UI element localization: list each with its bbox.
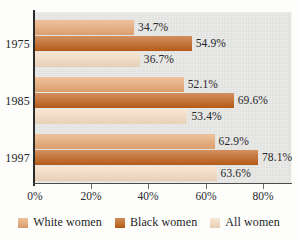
bar-value-label-1997-white-women: 62.9% xyxy=(219,134,249,149)
bar-fill xyxy=(35,150,258,165)
bar-fill xyxy=(35,77,184,92)
x-tick-label-60: 60% xyxy=(195,190,216,202)
legend-swatch-icon-white-women xyxy=(18,218,28,228)
bar-value-label-1997-all-women: 63.6% xyxy=(221,166,251,181)
bar-1985-black-women xyxy=(35,93,234,108)
bar-1975-all-women xyxy=(35,52,140,67)
bar-value-label-1997-black-women: 78.1% xyxy=(262,150,292,165)
bar-1985-all-women xyxy=(35,109,187,124)
legend-label-black-women: Black women xyxy=(130,215,197,230)
bar-value-label-1975-all-women: 36.7% xyxy=(144,52,174,67)
bar-1975-black-women xyxy=(35,36,192,51)
bar-fill xyxy=(35,134,215,149)
bar-value-label-1985-all-women: 53.4% xyxy=(191,109,221,124)
x-axis-line xyxy=(33,183,292,184)
legend-label-all-women: All women xyxy=(225,215,280,230)
bar-fill xyxy=(35,20,134,35)
bar-1975-white-women xyxy=(35,20,134,35)
bar-value-label-1975-black-women: 54.9% xyxy=(196,36,226,51)
legend-item-black-women: Black women xyxy=(115,215,197,230)
x-axis-tick-20 xyxy=(91,184,92,189)
bar-1997-all-women xyxy=(35,166,217,181)
category-label-1975: 1975 xyxy=(0,37,30,52)
x-tick-label-80: 80% xyxy=(252,190,273,202)
bar-fill xyxy=(35,36,192,51)
bar-fill xyxy=(35,109,187,124)
category-label-1997: 1997 xyxy=(0,151,30,166)
bar-1997-black-women xyxy=(35,150,258,165)
bar-value-label-1975-white-women: 34.7% xyxy=(138,20,168,35)
x-tick-label-40: 40% xyxy=(137,190,158,202)
bar-fill xyxy=(35,166,217,181)
x-axis-tick-40 xyxy=(148,184,149,189)
x-axis-tick-60 xyxy=(206,184,207,189)
x-axis-tick-80 xyxy=(263,184,264,189)
bar-fill xyxy=(35,52,140,67)
legend-label-white-women: White women xyxy=(33,215,102,230)
bar-1985-white-women xyxy=(35,77,184,92)
legend-item-all-women: All women xyxy=(210,215,280,230)
legend-swatch-icon-all-women xyxy=(210,218,220,228)
chart-legend: White women Black women All women xyxy=(0,215,298,230)
bar-value-label-1985-white-women: 52.1% xyxy=(188,77,218,92)
legend-swatch-icon-black-women xyxy=(115,218,125,228)
bar-value-label-1985-black-women: 69.6% xyxy=(238,93,268,108)
x-tick-label-20: 20% xyxy=(80,190,101,202)
x-tick-label-0: 0% xyxy=(27,190,42,202)
category-label-1985: 1985 xyxy=(0,94,30,109)
bar-fill xyxy=(35,93,234,108)
bar-chart-figure: 1975 34.7% 54.9% 36.7% 1985 52.1% 69.6% … xyxy=(0,0,298,240)
bar-1997-white-women xyxy=(35,134,215,149)
legend-item-white-women: White women xyxy=(18,215,102,230)
